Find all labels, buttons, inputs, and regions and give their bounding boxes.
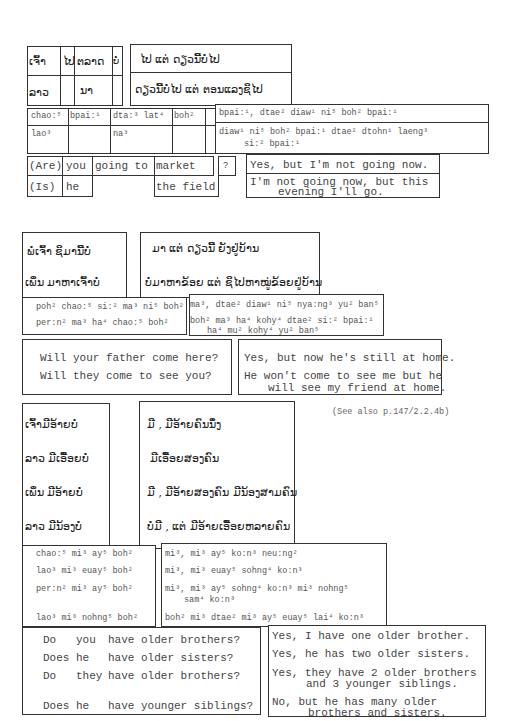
- lao-answer: ມີ , ມີອ້າຍສອງຄົນ ມີນ້ອງສາມຄົນ: [147, 486, 297, 499]
- romanization: dta:³ lat⁴: [113, 111, 164, 122]
- lao-question: ເພິ່ນ ມາຫາເຈົ້າບໍ່: [25, 276, 101, 289]
- english-question: Do: [43, 633, 56, 647]
- english-question: Does: [43, 651, 69, 665]
- lao-word: ບໍ່: [113, 55, 119, 66]
- romanization-answer: boh² mi³ dtae² mi³ ay⁵ euay⁵ lai⁴ ko:n³: [165, 613, 364, 624]
- lao-question: ເຈົ້າມີອ້າຍບໍ່: [25, 418, 78, 431]
- romanization-answer: ha⁴ mu² kohy⁴ yu² ban⁵: [207, 326, 319, 337]
- lao-word: ຕລາດ: [77, 55, 104, 68]
- romanization-answer: si:² bpai:¹: [244, 139, 300, 150]
- english-word: he: [66, 180, 79, 194]
- lao-answer: ບໍ່ມີ , ແຕ່ ມີອ້າຍເອື້ອຍຫລາຍຄົນ: [147, 520, 290, 533]
- english-question: you: [76, 633, 96, 647]
- english-question: Does: [43, 699, 69, 713]
- english-question: they: [76, 669, 102, 683]
- english-question: Will your father come here?: [40, 351, 218, 365]
- romanization: lao³: [31, 129, 51, 140]
- english-answer: brothers and sisters.: [308, 706, 447, 720]
- romanization-question: per:n² mi³ ay⁵ boh²: [36, 584, 133, 595]
- english-answer: Yes, but I'm not going now.: [250, 158, 428, 172]
- english-question-box: [22, 339, 232, 395]
- romanization-question: lao³ mi³ euay⁵ boh²: [36, 566, 133, 577]
- lao-answer: ດຽວນີ້ບໍ່ໄປ ແຕ່ ຕອນແລງຊິໄປ: [135, 83, 263, 96]
- english-word: (Is): [29, 180, 55, 194]
- lao-question: ລາວ ມີນ້ອງບໍ່: [25, 520, 83, 533]
- english-answer: and 3 younger siblings.: [306, 677, 458, 691]
- romanization-answer: mi³, mi³ ay⁵ ko:n³ neu:ng²: [165, 549, 298, 560]
- lao-word: ນາ: [80, 84, 93, 97]
- english-answer: Yes, but now he's still at home.: [244, 351, 455, 365]
- romanization: chao:⁵: [31, 111, 62, 122]
- lao-question: ເພິ່ນ ມີອ້າຍບໍ່: [25, 486, 84, 499]
- romanization-answer: mi³, mi³ ay⁵ sohng⁴ ko:n³ mi³ nohng⁵: [165, 584, 349, 595]
- romanization: boh²: [174, 111, 194, 122]
- lao-question: ພໍ່ເຈົ້າ ຊິມານີ້ບໍ່: [27, 245, 92, 258]
- lao-word: ໄປ: [63, 55, 75, 68]
- lao-answer: ມີເອື້ອຍສອງຄົນ: [150, 452, 219, 465]
- english-answer: Yes, I have one older brother.: [272, 629, 470, 643]
- english-question: have older brothers?: [108, 633, 240, 647]
- lao-answer: ມາ ແຕ່ ດຽວນີ້ ຍັງຢູ່ບ້ານ: [152, 242, 260, 255]
- english-answer: Yes, he has two older sisters.: [272, 647, 470, 661]
- english-question: Will they come to see you?: [40, 369, 212, 383]
- lao-word: ເຈົ້າ: [29, 55, 46, 68]
- english-word: the field: [156, 180, 215, 194]
- lao-answer: ໄປ ແຕ່ ດຽວນີ້ບໍ່ໄປ: [140, 53, 220, 66]
- romanization: bpai:¹: [70, 111, 101, 122]
- english-word: you: [66, 159, 86, 173]
- english-word: market: [156, 159, 196, 173]
- english-question: have younger siblings?: [108, 699, 253, 713]
- cross-reference-note: (See also p.147/2.2.4b): [332, 407, 449, 417]
- english-word: going to: [95, 159, 148, 173]
- lao-answer: ມີ , ມີອ້າຍຄົນນຶ່ງ: [147, 418, 222, 431]
- english-word: (Are): [29, 159, 62, 173]
- romanization: na³: [113, 129, 128, 140]
- english-answer: evening I'll go.: [278, 187, 384, 198]
- romanization-answer: ma³, dtae² diaw¹ ni⁵ nya:ng³ yu² ban⁵: [190, 300, 379, 311]
- lao-answer: ບໍ່ມາຫາຂ້ອຍ ແຕ່ ຊິໄປຫາໝູ່ຂ້ອຍຢູ່ບ້ານ: [145, 276, 322, 289]
- romanization-answer: diaw¹ ni⁵ boh² bpai:¹ dtae² dtohn¹ laeng…: [219, 127, 428, 138]
- english-answer: will see my friend at home.: [268, 381, 446, 395]
- romanization-answer: bpai:¹, dtae² diaw¹ ni⁵ boh² bpai:¹: [219, 108, 398, 119]
- romanization-question: poh² chao:⁵ si:² ma³ ni⁵ boh²: [36, 302, 184, 313]
- romanization-question: per:n² ma³ ha⁴ chao:⁵ boh²: [36, 318, 169, 329]
- lao-question: ລາວ ມີເອື້ອຍບໍ່: [25, 452, 90, 465]
- lao-word: ລາວ: [29, 86, 49, 99]
- romanization-answer: sam⁴ ko:n³: [184, 595, 235, 606]
- english-question: Do: [43, 669, 56, 683]
- english-question: he: [76, 651, 89, 665]
- english-question: have older sisters?: [108, 651, 233, 665]
- romanization-question: lao³ mi³ nohng⁵ boh²: [36, 613, 138, 624]
- english-question: have older brothers?: [108, 669, 240, 683]
- romanization-answer: mi³, mi³ euay⁵ sohng⁴ ko:n³: [165, 566, 303, 577]
- english-question: he: [76, 699, 89, 713]
- romanization-question: chao:⁵ mi³ ay⁵ boh²: [36, 549, 133, 560]
- english-word: ?: [223, 159, 228, 173]
